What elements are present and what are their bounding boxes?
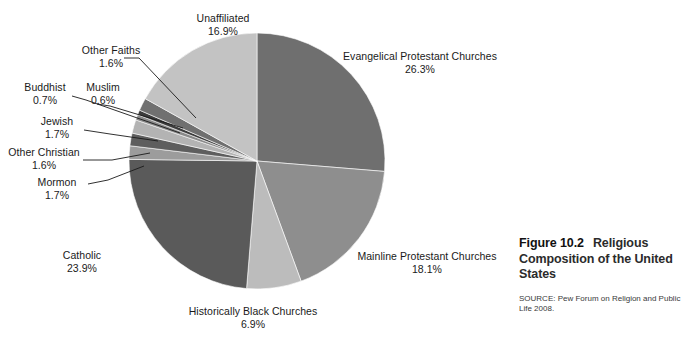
slice-label-mainline-protestant-churches: Mainline Protestant Churches 18.1% (348, 250, 506, 275)
figure-number: Figure 10.2 (519, 236, 584, 250)
slice-label-muslim-pct: 0.6% (72, 94, 134, 107)
slice-label-mormon: Mormon 1.7% (26, 176, 88, 201)
figure-caption: Figure 10.2Religious Composition of the … (519, 236, 691, 315)
slice-label-mormon-name: Mormon (26, 176, 88, 189)
slice-label-historically-black-churches-pct: 6.9% (172, 318, 334, 331)
slice-label-other-christian: Other Christian 1.6% (3, 146, 85, 171)
slice-label-historically-black-churches: Historically Black Churches 6.9% (172, 305, 334, 330)
slice-label-catholic: Catholic 23.9% (48, 249, 116, 274)
slice-label-unaffiliated: Unaffiliated 16.9% (156, 12, 290, 37)
slice-label-evangelical-protestant-churches-name: Evangelical Protestant Churches (334, 50, 506, 63)
slice-label-unaffiliated-pct: 16.9% (156, 25, 290, 38)
slice-label-other-faiths-pct: 1.6% (55, 57, 167, 70)
slice-label-jewish: Jewish 1.7% (26, 115, 88, 140)
pie-slice (129, 159, 257, 288)
slice-label-historically-black-churches-name: Historically Black Churches (172, 305, 334, 318)
figure-source: SOURCE: Pew Forum on Religion and Public… (519, 294, 691, 315)
slice-label-other-christian-pct: 1.6% (3, 159, 85, 172)
slice-label-mainline-protestant-churches-name: Mainline Protestant Churches (348, 250, 506, 263)
slice-label-jewish-name: Jewish (26, 115, 88, 128)
slice-label-mainline-protestant-churches-pct: 18.1% (348, 263, 506, 276)
slice-label-evangelical-protestant-churches-pct: 26.3% (334, 63, 506, 76)
pie-chart-area: Unaffiliated 16.9% Other Faiths 1.6% Mus… (0, 0, 510, 348)
slice-label-mormon-pct: 1.7% (26, 189, 88, 202)
slice-label-muslim: Muslim 0.6% (72, 81, 134, 106)
slice-label-buddhist-pct: 0.7% (13, 94, 77, 107)
figure-container: Unaffiliated 16.9% Other Faiths 1.6% Mus… (0, 0, 699, 348)
slice-label-other-faiths: Other Faiths 1.6% (55, 44, 167, 69)
slice-label-catholic-name: Catholic (48, 249, 116, 262)
slice-label-other-christian-name: Other Christian (3, 146, 85, 159)
slice-label-buddhist: Buddhist 0.7% (13, 81, 77, 106)
slice-label-evangelical-protestant-churches: Evangelical Protestant Churches 26.3% (334, 50, 506, 75)
slice-label-unaffiliated-name: Unaffiliated (156, 12, 290, 25)
figure-caption-title: Figure 10.2Religious Composition of the … (519, 236, 691, 283)
slice-label-muslim-name: Muslim (72, 81, 134, 94)
slice-label-other-faiths-name: Other Faiths (55, 44, 167, 57)
slice-label-jewish-pct: 1.7% (26, 128, 88, 141)
slice-label-catholic-pct: 23.9% (48, 262, 116, 275)
slice-label-buddhist-name: Buddhist (13, 81, 77, 94)
